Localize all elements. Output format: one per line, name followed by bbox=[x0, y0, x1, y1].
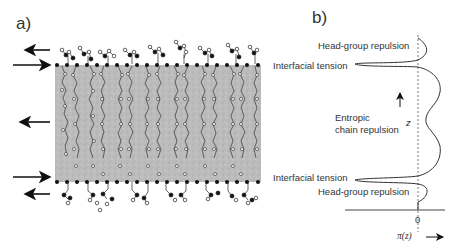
head-group-repulsion-bottom-label: Head-group repulsion bbox=[318, 186, 409, 197]
force-arrows bbox=[13, 50, 50, 194]
interfacial-tension-top-label: Interfacial tension bbox=[273, 60, 347, 71]
x-axis-zero-tick: 0 bbox=[415, 214, 420, 225]
bottom-head-groups bbox=[62, 182, 258, 212]
x-axis-label: π(z) bbox=[397, 231, 412, 241]
interfacial-tension-bottom-label: Interfacial tension bbox=[273, 172, 347, 183]
entropic-label-line1: Entropic bbox=[335, 112, 370, 123]
bilayer-core bbox=[55, 65, 261, 182]
entropic-label-line2: chain repulsion bbox=[335, 124, 399, 135]
z-axis-label: z bbox=[406, 117, 411, 128]
panel-b-label: b) bbox=[312, 8, 327, 28]
pressure-profile-plot bbox=[345, 35, 445, 237]
head-group-repulsion-top-label: Head-group repulsion bbox=[318, 40, 409, 51]
top-head-groups bbox=[60, 40, 259, 64]
